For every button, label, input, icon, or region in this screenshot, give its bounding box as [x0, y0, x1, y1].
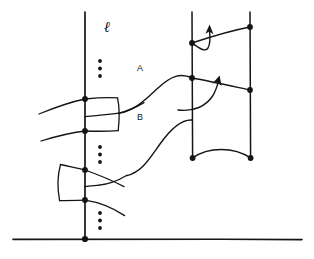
right-bottom-arc	[193, 149, 251, 158]
box2-left-edge	[58, 165, 60, 201]
left-box-upper	[85, 98, 119, 132]
ellipsis-middle	[98, 145, 102, 164]
left-box-lower	[58, 165, 99, 201]
dot-left-box2-upper	[82, 167, 88, 173]
dot-right-outer-b	[247, 87, 253, 93]
dot-right-outer-a	[247, 24, 253, 30]
box1-middle-curve	[85, 113, 119, 116]
arrow-lower-hook	[178, 82, 218, 111]
ellipsis-dot	[98, 219, 102, 223]
line-right-inner	[192, 12, 193, 158]
left-curve-a	[39, 99, 85, 114]
dot-left-box2-lower	[82, 197, 88, 203]
left-curves-lower	[85, 170, 127, 216]
ellipsis-dot	[98, 59, 102, 63]
box2-middle-edge	[85, 185, 99, 186]
dot-right-outer-c	[248, 155, 254, 161]
dot-left-lower	[82, 128, 88, 134]
ellipsis-top	[98, 59, 102, 78]
box1-top-edge	[85, 98, 118, 99]
baseline	[13, 239, 302, 240]
box1-right-edge	[118, 98, 120, 131]
right-top-chord	[192, 27, 250, 43]
diagram-svg	[0, 0, 314, 259]
ellipsis-dot	[98, 67, 102, 71]
right-curves-group	[178, 27, 251, 158]
curve-b	[127, 120, 192, 176]
dot-right-inner-a	[189, 40, 195, 46]
arrow-heads-group	[205, 24, 221, 86]
label-curve-a: A	[137, 64, 143, 73]
figure-canvas: ℓ A B	[0, 0, 314, 259]
ellipsis-dot	[98, 226, 102, 230]
curve-b-group	[127, 120, 192, 176]
label-line-ell: ℓ	[104, 20, 110, 35]
curve-a-group	[119, 75, 192, 113]
left-curve-b	[41, 131, 85, 141]
baseline-group	[13, 239, 302, 240]
dot-right-inner-b	[189, 75, 195, 81]
dot-left-upper	[82, 96, 88, 102]
left-curves-upper	[39, 99, 144, 141]
curve-a	[119, 75, 192, 113]
vertical-lines-group	[85, 12, 251, 240]
label-curve-b: B	[137, 113, 143, 122]
ellipsis-bottom	[98, 211, 102, 230]
ellipsis-dot	[98, 153, 102, 157]
ellipsis-dot	[98, 211, 102, 215]
dot-right-inner-c	[190, 155, 196, 161]
ellipsis-dot	[98, 160, 102, 164]
ellipsis-dot	[98, 145, 102, 149]
box2-curve-lower-out	[85, 200, 125, 215]
ellipsis-dot	[98, 74, 102, 78]
dot-baseline	[82, 236, 88, 242]
box2-top-edge	[61, 165, 86, 171]
box1-bottom-edge	[85, 131, 118, 132]
line-right-outer	[250, 12, 251, 158]
